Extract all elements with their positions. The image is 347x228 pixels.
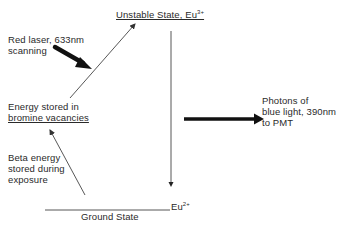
decay-arrow-head: [169, 182, 174, 187]
unstable-state-label: Unstable State, Eu3+: [116, 9, 204, 20]
red-laser-label: Red laser, 633nm scanning: [8, 34, 84, 56]
energy-stored-line1: Energy stored in: [8, 101, 89, 112]
unstable-state-superscript: 3+: [197, 9, 204, 15]
ground-state-label: Ground State: [81, 211, 139, 222]
photons-line3: to PMT: [262, 117, 336, 128]
photons-line2: blue light, 390nm: [262, 106, 336, 117]
energy-stored-line2: bromine vacancies: [8, 112, 89, 123]
beta-energy-line1: Beta energy: [8, 152, 65, 163]
unstable-state-text: Unstable State, Eu: [116, 9, 197, 20]
red-laser-line1: Red laser, 633nm: [8, 34, 84, 45]
ground-state-text: Ground State: [81, 211, 139, 222]
ground-state-ion-text: Eu: [171, 201, 183, 212]
beta-energy-label: Beta energy stored during exposure: [8, 152, 65, 185]
ground-state-ion-label: Eu2+: [171, 201, 190, 212]
beta-energy-line3: exposure: [8, 174, 65, 185]
ground-state-ion-superscript: 2+: [183, 201, 190, 207]
energy-stored-label: Energy stored in bromine vacancies: [8, 101, 89, 123]
red-laser-line2: scanning: [8, 45, 84, 56]
beta-energy-line2: stored during: [8, 163, 65, 174]
photons-label: Photons of blue light, 390nm to PMT: [262, 95, 336, 128]
photon-arrow: [184, 114, 264, 125]
photons-line1: Photons of: [262, 95, 336, 106]
